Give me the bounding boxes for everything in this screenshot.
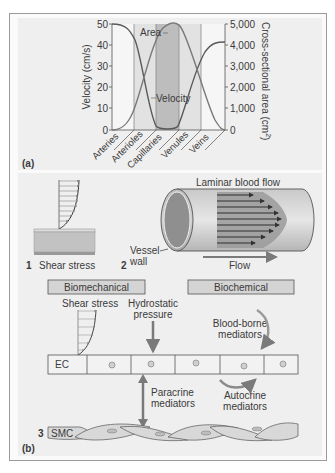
tick-label: 10 <box>97 103 109 114</box>
tick-label: 20 <box>97 82 109 93</box>
autocrine-label: Autocrine <box>224 390 267 401</box>
bloodborne-label: mediators <box>218 329 262 340</box>
paracrine-label: Paracrine <box>151 387 194 398</box>
shear-stress-label: Shear stress <box>62 298 118 309</box>
tick-label: 2,000 <box>230 82 255 93</box>
vessel-wall-label: Vessel <box>130 245 159 256</box>
right-axis-title: Cross-sectional area (cm2) <box>260 22 272 140</box>
hydrostatic-label: pressure <box>134 309 173 320</box>
autocrine-label: mediators <box>223 401 267 412</box>
item-1-number: 1 <box>26 260 32 271</box>
item-3-number: 3 <box>38 428 44 439</box>
flow-label: Flow <box>229 260 251 271</box>
ec-label: EC <box>55 359 69 370</box>
bloodborne-label: Blood-borne <box>213 318 268 329</box>
biomechanical-label: Biomechanical <box>64 282 129 293</box>
paracrine-label: mediators <box>151 398 195 409</box>
tick-label: 30 <box>97 61 109 72</box>
capillaries-band <box>156 24 179 130</box>
panel-a: 0 10 20 30 40 50 0 1,000 2,000 3,000 4,0… <box>18 18 322 170</box>
tick-label: 1,000 <box>230 103 255 114</box>
item-1-label: Shear stress <box>39 260 95 271</box>
tick-label: 40 <box>97 40 109 51</box>
tick-label: 0 <box>230 125 236 136</box>
panel-b-label: (b) <box>22 443 35 454</box>
vessel-wall-label: wall <box>129 256 147 267</box>
vessel-tube <box>161 189 314 251</box>
smc-label: SMC <box>51 428 73 439</box>
hydrostatic-label: Hydrostatic <box>128 298 178 309</box>
arteries-band <box>112 24 134 130</box>
laminar-flow-title: Laminar blood flow <box>196 177 281 188</box>
panel-b: 1 Shear stress 2 Laminar blood flow Vess… <box>18 173 322 456</box>
endothelial-cell-row <box>48 355 298 374</box>
figure-canvas: 0 10 20 30 40 50 0 1,000 2,000 3,000 4,0… <box>0 0 335 473</box>
panel-a-label: (a) <box>22 158 34 169</box>
tick-label: 4,000 <box>230 40 255 51</box>
velocity-label: Velocity <box>156 93 190 104</box>
tick-label: 3,000 <box>230 61 255 72</box>
tick-label: 50 <box>97 19 109 30</box>
area-label: Area <box>140 27 162 38</box>
left-axis-title: Velocity (cm/s) <box>81 44 92 109</box>
tick-label: 5,000 <box>230 19 255 30</box>
item-2-number: 2 <box>121 260 127 271</box>
arterioles-band <box>134 24 156 130</box>
biochemical-label: Biochemical <box>214 282 268 293</box>
